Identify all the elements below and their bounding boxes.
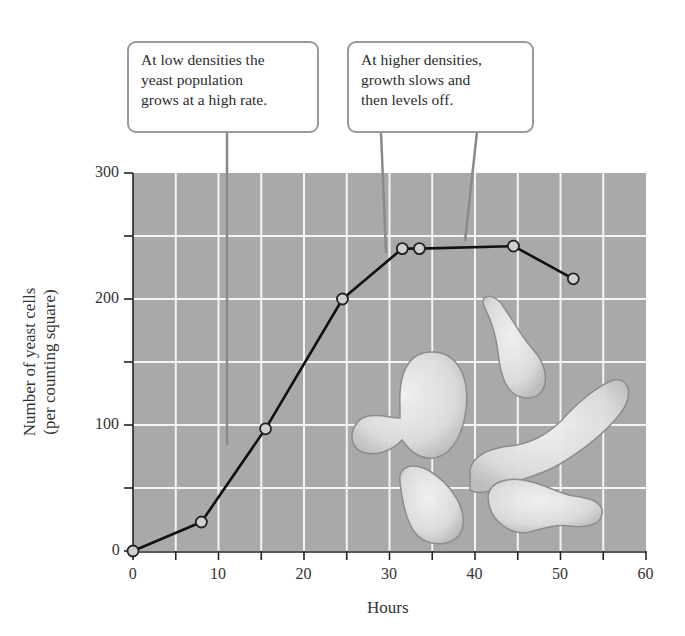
- data-point: [196, 517, 207, 528]
- x-tick-label: 30: [381, 565, 397, 583]
- data-point: [128, 546, 139, 557]
- x-axis-label: Hours: [367, 598, 409, 618]
- x-tick-label: 60: [638, 565, 654, 583]
- annotation-line: At higher densities,: [361, 50, 522, 70]
- x-tick-label: 10: [210, 565, 226, 583]
- annotation-line: grows at a high rate.: [141, 90, 307, 110]
- data-point: [260, 423, 271, 434]
- annotation-line: then levels off.: [361, 90, 522, 110]
- y-tick-label: 0: [112, 541, 120, 559]
- data-point: [568, 273, 579, 284]
- annotation-high-density: At higher densities, growth slows and th…: [347, 41, 534, 133]
- y-tick-label: 100: [95, 415, 119, 433]
- x-tick-label: 0: [129, 565, 137, 583]
- y-axis-label-line: (per counting square): [40, 288, 60, 437]
- y-axis-label-line: Number of yeast cells: [20, 288, 40, 437]
- annotation-line: At low densities the: [141, 50, 307, 70]
- annotation-line: yeast population: [141, 70, 307, 90]
- data-point: [414, 243, 425, 254]
- chart-canvas: [0, 0, 685, 636]
- data-point: [508, 241, 519, 252]
- x-tick-label: 20: [296, 565, 312, 583]
- y-axis-label: Number of yeast cells (per counting squa…: [20, 288, 60, 437]
- data-point: [397, 243, 408, 254]
- x-tick-label: 50: [552, 565, 568, 583]
- y-tick-label: 300: [95, 163, 119, 181]
- data-point: [337, 294, 348, 305]
- x-tick-label: 40: [467, 565, 483, 583]
- annotation-low-density: At low densities the yeast population gr…: [127, 41, 319, 133]
- y-tick-label: 200: [95, 289, 119, 307]
- annotation-line: growth slows and: [361, 70, 522, 90]
